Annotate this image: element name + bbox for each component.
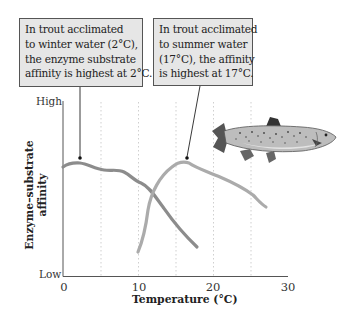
summer-curve (138, 162, 266, 252)
winter-curve (63, 163, 197, 247)
leader-summer (187, 86, 200, 157)
gridlines (101, 102, 251, 276)
y-axis-high-label: High (36, 95, 62, 107)
x-tick-10: 10 (132, 280, 147, 294)
x-tick-20: 20 (206, 280, 221, 294)
trout-icon (212, 117, 336, 163)
x-tick-30: 30 (281, 280, 296, 294)
y-axis-title: Enzyme–substrate affinity (23, 125, 49, 265)
y-axis-low-label: Low (39, 268, 61, 280)
leader-summer-dot (185, 156, 189, 160)
x-tick-0: 0 (60, 280, 67, 294)
x-axis-title: Temperature (°C) (132, 293, 238, 306)
leader-winter-dot (78, 156, 82, 160)
